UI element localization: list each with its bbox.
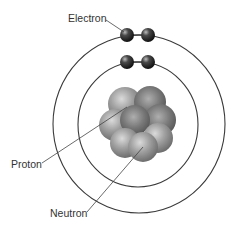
electron [141,28,155,42]
electron [141,55,155,69]
electron [120,55,134,69]
nucleus [99,86,176,162]
atom-diagram: Electron Proton Neutron [0,0,237,231]
neutron-leader-line [87,147,143,212]
inner-shell-electrons [120,55,155,69]
neutron-label: Neutron [50,207,88,219]
electron-label: Electron [68,12,107,24]
electron [120,28,134,42]
proton-label: Proton [11,158,42,170]
electron-leader-line [106,20,124,32]
outer-shell-electrons [120,28,155,42]
